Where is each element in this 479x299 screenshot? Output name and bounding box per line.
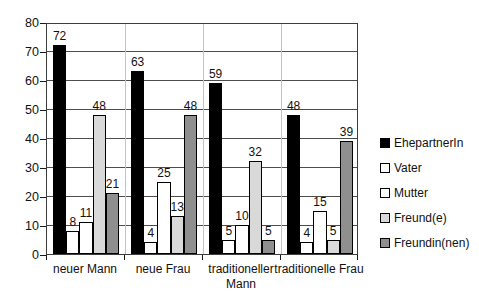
x-axis-tick-mark bbox=[124, 255, 125, 260]
bar-value-label: 63 bbox=[125, 56, 151, 69]
y-axis-tick-label: 20 bbox=[13, 190, 39, 204]
y-axis-tick-mark bbox=[40, 23, 46, 24]
y-axis-tick-mark bbox=[40, 81, 46, 82]
gridline bbox=[47, 51, 357, 52]
legend-item-Freundin(nen): Freundin(nen) bbox=[380, 237, 469, 249]
legend-label: Freund(e) bbox=[394, 212, 447, 224]
y-axis-tick-label: 30 bbox=[13, 161, 39, 175]
bar-value-label: 32 bbox=[242, 146, 268, 159]
y-axis-tick-mark bbox=[40, 139, 46, 140]
legend-item-Mutter: Mutter bbox=[380, 187, 469, 199]
bar-value-label: 39 bbox=[333, 126, 359, 139]
bar-value-label: 15 bbox=[307, 196, 333, 209]
y-axis-tick-label: 70 bbox=[13, 45, 39, 59]
bar-value-label: 48 bbox=[86, 100, 112, 113]
x-axis-category-label: traditionelle Frau bbox=[273, 262, 365, 277]
bar-chart-figure: 7281148216342513485951032548415539 01020… bbox=[0, 0, 479, 299]
legend-item-Freund(e): Freund(e) bbox=[380, 212, 469, 224]
chart-legend: EhepartnerInVaterMutterFreund(e)Freundin… bbox=[380, 137, 469, 262]
legend-item-Vater: Vater bbox=[380, 162, 469, 174]
bar-Vater-neuer Mann bbox=[66, 231, 79, 254]
bar-value-label: 10 bbox=[229, 210, 255, 223]
y-axis-tick-label: 80 bbox=[13, 16, 39, 30]
y-axis-tick-mark bbox=[40, 52, 46, 53]
bar-value-label: 4 bbox=[138, 227, 164, 240]
legend-swatch bbox=[380, 138, 390, 148]
bar-value-label: 11 bbox=[73, 207, 99, 220]
bar-value-label: 72 bbox=[47, 30, 73, 43]
plot-area: 7281148216342513485951032548415539 bbox=[46, 23, 358, 255]
bar-Freundin(nen)-neuer Mann bbox=[106, 193, 119, 254]
y-axis-tick-label: 50 bbox=[13, 103, 39, 117]
x-axis-tick-mark bbox=[46, 255, 47, 260]
x-axis-tick-mark bbox=[280, 255, 281, 260]
bar-Freundin(nen)-neue Frau bbox=[184, 115, 197, 254]
bar-value-label: 5 bbox=[255, 225, 281, 238]
x-axis-tick-mark bbox=[202, 255, 203, 260]
legend-swatch bbox=[380, 213, 390, 223]
legend-label: Freundin(nen) bbox=[394, 237, 469, 249]
legend-label: Vater bbox=[394, 162, 422, 174]
bar-value-label: 13 bbox=[164, 201, 190, 214]
y-axis-tick-label: 40 bbox=[13, 132, 39, 146]
legend-label: EhepartnerIn bbox=[394, 137, 463, 149]
category-separator-line bbox=[203, 24, 204, 254]
y-axis-tick-mark bbox=[40, 168, 46, 169]
category-separator-line bbox=[281, 24, 282, 254]
y-axis-tick-label: 0 bbox=[13, 248, 39, 262]
bar-value-label: 48 bbox=[281, 100, 307, 113]
bar-value-label: 21 bbox=[99, 178, 125, 191]
y-axis-tick-label: 10 bbox=[13, 219, 39, 233]
x-axis-tick-mark bbox=[357, 255, 358, 260]
bar-value-label: 59 bbox=[203, 68, 229, 81]
legend-label: Mutter bbox=[394, 187, 428, 199]
bar-value-label: 5 bbox=[216, 225, 242, 238]
bar-value-label: 5 bbox=[320, 225, 346, 238]
bar-Freund(e)-traditionelle Frau bbox=[327, 240, 340, 255]
bar-value-label: 48 bbox=[177, 100, 203, 113]
bar-Mutter-neue Frau bbox=[157, 182, 170, 255]
bar-Freund(e)-neue Frau bbox=[171, 216, 184, 254]
legend-swatch bbox=[380, 188, 390, 198]
y-axis-tick-mark bbox=[40, 197, 46, 198]
y-axis-tick-mark bbox=[40, 110, 46, 111]
bar-Vater-neue Frau bbox=[144, 242, 157, 254]
bar-Freund(e)-traditioneller Mann bbox=[249, 161, 262, 254]
bar-Freundin(nen)-traditioneller Mann bbox=[262, 240, 275, 255]
legend-swatch bbox=[380, 238, 390, 248]
bar-value-label: 4 bbox=[294, 227, 320, 240]
y-axis-tick-mark bbox=[40, 226, 46, 227]
bar-Vater-traditionelle Frau bbox=[300, 242, 313, 254]
y-axis-tick-label: 60 bbox=[13, 74, 39, 88]
legend-item-EhepartnerIn: EhepartnerIn bbox=[380, 137, 469, 149]
bar-Vater-traditioneller Mann bbox=[222, 240, 235, 255]
bar-value-label: 25 bbox=[151, 167, 177, 180]
legend-swatch bbox=[380, 163, 390, 173]
